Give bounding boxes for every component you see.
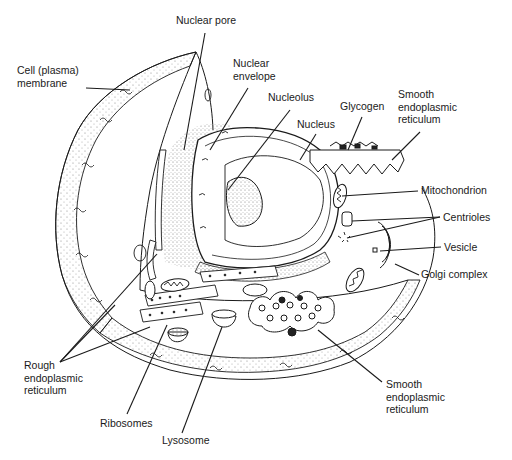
label-glycogen: Glycogen bbox=[340, 100, 384, 113]
label-lysosome: Lysosome bbox=[162, 434, 209, 447]
label-ribosomes: Ribosomes bbox=[100, 417, 153, 430]
vesicle-oval-shape bbox=[243, 284, 267, 296]
cell-diagram: Nuclear pore Cell (plasma) membrane Nucl… bbox=[0, 0, 512, 460]
label-vesicle: Vesicle bbox=[444, 241, 477, 254]
label-rough-er: Rough endoplasmic reticulum bbox=[24, 359, 83, 397]
label-nuclear-pore: Nuclear pore bbox=[176, 14, 236, 27]
label-centrioles: Centrioles bbox=[443, 211, 490, 224]
label-smooth-er-bottom: Smooth endoplasmic reticulum bbox=[386, 378, 445, 416]
label-nucleus: Nucleus bbox=[297, 118, 335, 131]
leader-line-smooth-er-top bbox=[392, 132, 420, 160]
label-cell-membrane: Cell (plasma) membrane bbox=[17, 64, 79, 89]
label-nuclear-envelope: Nuclear envelope bbox=[233, 57, 276, 82]
label-nucleolus: Nucleolus bbox=[268, 91, 314, 104]
label-smooth-er-top: Smooth endoplasmic reticulum bbox=[398, 88, 457, 126]
label-mitochondrion: Mitochondrion bbox=[421, 184, 487, 197]
label-golgi-complex: Golgi complex bbox=[421, 268, 488, 281]
